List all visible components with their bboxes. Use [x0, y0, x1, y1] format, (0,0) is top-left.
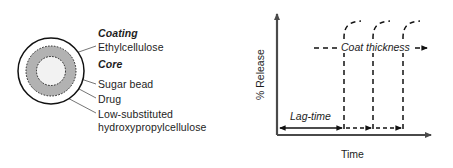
label-drug: Drug: [98, 93, 121, 106]
lag-time-annotation: Lag-time: [290, 110, 331, 122]
label-sugar-bead: Sugar bead: [98, 78, 153, 91]
release-curve-thin: [344, 21, 361, 129]
release-chart-panel: % Release Time Coat thickness Lag-time: [228, 0, 453, 168]
release-curve-thick: [403, 21, 420, 129]
label-core: Core: [98, 58, 122, 71]
pellet-sugar-core: [37, 57, 66, 86]
release-curve-medium: [373, 21, 390, 129]
figure-root: Coating Ethylcellulose Core Sugar bead D…: [0, 0, 453, 168]
label-lhpc-line2: hydroxypropylcellulose: [98, 121, 206, 134]
label-lhpc-line1: Low-substituted: [98, 108, 173, 121]
release-curves: [344, 21, 420, 129]
label-coating: Coating: [98, 27, 138, 40]
y-axis-label: % Release: [254, 49, 266, 100]
x-axis-label: Time: [341, 148, 364, 160]
coat-thickness-annotation: Coat thickness: [339, 41, 412, 53]
pellet-diagram-panel: Coating Ethylcellulose Core Sugar bead D…: [0, 0, 228, 168]
label-ethylcellulose: Ethylcellulose: [98, 41, 164, 54]
